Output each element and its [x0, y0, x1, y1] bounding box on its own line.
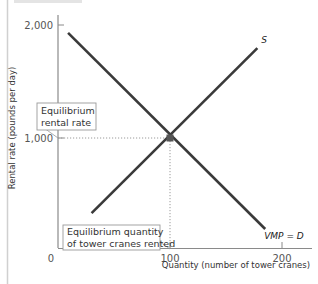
annotation-line-2: of tower cranes rented: [67, 238, 175, 249]
demand-curve: [68, 33, 265, 229]
top-header-tab: [14, 0, 82, 3]
annotation-line-1: Equilibrium: [41, 105, 95, 116]
annotation-line-1: Equilibrium quantity: [67, 226, 164, 237]
axes: [58, 15, 312, 249]
y-axis-label: Rental rate (pounds per day): [7, 67, 17, 190]
supply-curve-label: S: [261, 35, 267, 45]
y-tick-label: 1,000: [24, 133, 53, 144]
curves: VMP = DS: [68, 33, 304, 241]
x-tick-label: 0: [48, 253, 54, 264]
equilibrium-point: [167, 135, 174, 142]
annotation-equilibrium-quantity: Equilibrium quantity of tower cranes ren…: [63, 225, 175, 250]
chart: 1,0002,0000100200 VMP = DS Equilibrium r…: [0, 0, 318, 284]
y-tick-label: 2,000: [24, 20, 53, 31]
supply-curve: [92, 48, 258, 213]
demand-curve-label: VMP = D: [264, 231, 304, 241]
annotation-line-2: rental rate: [41, 117, 91, 128]
x-axis-label: Quantity (number of tower cranes): [162, 260, 310, 270]
